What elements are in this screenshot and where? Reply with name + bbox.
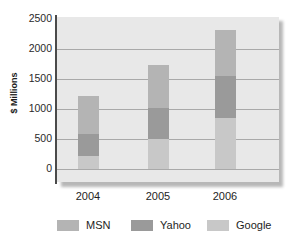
legend: MSN Yahoo Google — [0, 216, 291, 238]
bar-segment-google-2004[interactable] — [78, 156, 99, 169]
plot-area — [57, 17, 279, 182]
bar-segment-msn-2006[interactable] — [215, 30, 236, 77]
x-tick-2004: 2004 — [58, 190, 118, 202]
y-tick-1500: 1500 — [18, 73, 52, 83]
legend-label-google: Google — [236, 219, 271, 231]
bar-segment-yahoo-2005[interactable] — [148, 108, 169, 139]
bar-segment-yahoo-2006[interactable] — [215, 76, 236, 118]
legend-item-msn[interactable]: MSN — [57, 216, 110, 234]
legend-label-yahoo: Yahoo — [160, 219, 191, 231]
bar-segment-yahoo-2004[interactable] — [78, 134, 99, 156]
bar-2004[interactable] — [78, 96, 99, 169]
bar-segment-google-2005[interactable] — [148, 139, 169, 169]
legend-swatch-msn — [57, 220, 79, 231]
legend-item-google[interactable]: Google — [207, 216, 271, 234]
legend-swatch-google — [207, 220, 229, 231]
gridline-2000 — [57, 49, 279, 50]
bar-segment-msn-2005[interactable] — [148, 65, 169, 108]
y-axis-tick-labels: 2500 2000 1500 1000 500 0 — [16, 0, 52, 241]
bar-segment-google-2006[interactable] — [215, 118, 236, 169]
y-tick-500: 500 — [18, 133, 52, 143]
bar-2005[interactable] — [148, 65, 169, 169]
legend-swatch-yahoo — [131, 220, 153, 231]
x-tick-2005: 2005 — [128, 190, 188, 202]
y-tick-1000: 1000 — [18, 103, 52, 113]
bar-2006[interactable] — [215, 30, 236, 170]
legend-item-yahoo[interactable]: Yahoo — [131, 216, 191, 234]
y-tick-2500: 2500 — [18, 13, 52, 23]
legend-label-msn: MSN — [86, 219, 110, 231]
y-tick-0: 0 — [18, 163, 52, 173]
stacked-bar-chart: $ Millions 2500 2000 1500 1000 500 0 200… — [0, 0, 291, 241]
x-tick-2006: 2006 — [195, 190, 255, 202]
bar-segment-msn-2004[interactable] — [78, 96, 99, 134]
gridline-0 — [57, 169, 279, 170]
y-tick-2000: 2000 — [18, 43, 52, 53]
